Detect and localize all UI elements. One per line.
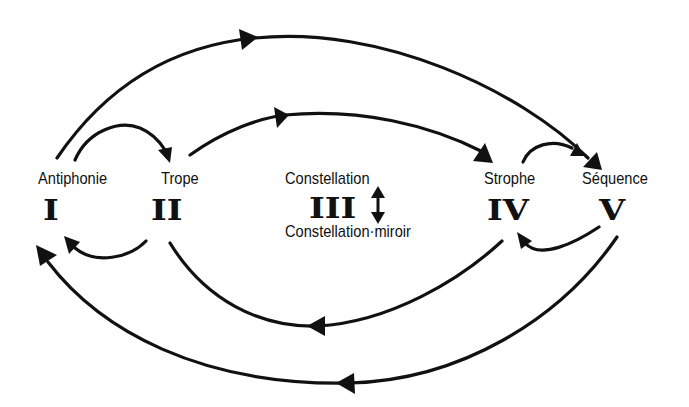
edge-IV-to-V <box>523 143 572 162</box>
node-label-constellation: Constellation <box>285 169 370 189</box>
node-label-sequence: Séquence <box>582 169 648 189</box>
node-label-constellation-miroir: Constellation·miroir <box>285 222 411 242</box>
arrowhead-mid-IV-to-II <box>307 316 325 336</box>
node-numeral-IV: IV <box>487 197 529 224</box>
node-numeral-V: V <box>599 197 625 224</box>
arrowhead-end-V-to-I <box>36 245 57 266</box>
edge-IV-to-II <box>170 241 502 326</box>
node-numeral-II: II <box>151 197 183 224</box>
edge-I-to-II <box>75 125 165 160</box>
edge-V-to-I <box>48 237 617 383</box>
edge-I-to-V <box>57 36 588 158</box>
node-label-trope: Trope <box>161 169 199 189</box>
node-label-strophe: Strophe <box>484 169 535 189</box>
arrowhead-mid-II-to-IV <box>274 107 289 128</box>
node-label-antiphonie: Antiphonie <box>38 169 107 189</box>
arrowhead-end-I-to-II <box>158 147 172 163</box>
edge-II-to-I <box>75 241 146 258</box>
edge-II-to-IV <box>190 113 483 155</box>
bidirectional-arrow-icon <box>371 186 385 224</box>
node-numeral-III: III <box>309 195 356 222</box>
edge-V-to-IV <box>525 227 599 250</box>
node-numeral-I: I <box>43 197 59 224</box>
arrowhead-mid-V-to-I <box>336 373 355 394</box>
arrowhead-end-II-to-IV <box>473 143 493 163</box>
